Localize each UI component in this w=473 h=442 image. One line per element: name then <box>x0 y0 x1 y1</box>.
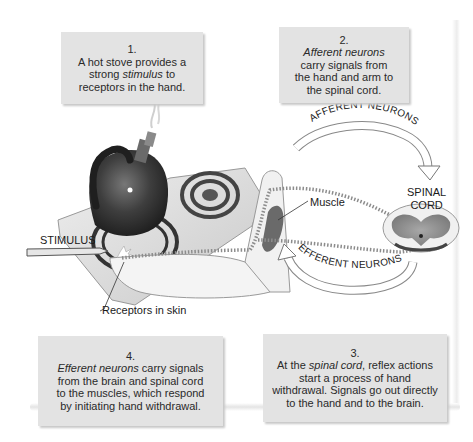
step-4-caption: 4. Efferent neurons carry signals from t… <box>38 336 223 426</box>
step-number: 1. <box>65 43 199 56</box>
caption-line: At the spinal cord, reflex actions <box>267 359 443 372</box>
stimulus-label: STIMULUS <box>40 234 96 246</box>
caption-line: Afferent neurons <box>283 46 405 59</box>
caption-line: carry signals from <box>283 59 405 72</box>
step-number: 2. <box>283 34 405 47</box>
caption-line: to the hand and to the brain. <box>267 397 443 410</box>
step-number: 3. <box>267 347 443 360</box>
caption-line: Efferent neurons carry signals <box>42 362 219 375</box>
step-3-caption: 3. At the spinal cord, reflex actions st… <box>263 334 447 422</box>
svg-text:EFFERENT NEURONS: EFFERENT NEURONS <box>296 242 403 271</box>
kettle <box>89 98 168 236</box>
muscle-label: Muscle <box>310 196 345 208</box>
step-number: 4. <box>42 350 219 363</box>
caption-line: withdrawal. Signals go out directly <box>267 384 443 397</box>
caption-line: A hot stove provides a <box>65 56 199 69</box>
caption-line: the hand and arm to <box>283 71 405 84</box>
efferent-neurons-arrow: EFFERENT NEURONS <box>278 242 413 291</box>
stove-burner-back <box>182 173 238 217</box>
spinal-cord-label-line1: SPINAL <box>407 186 446 199</box>
receptors-label: Receptors in skin <box>102 304 186 316</box>
step-2-caption: 2. Afferent neurons carry signals from t… <box>279 27 409 103</box>
caption-line: receptors in the hand. <box>65 81 199 94</box>
caption-line: the spinal cord. <box>283 84 405 97</box>
caption-line: strong stimulus to <box>65 68 199 81</box>
spinal-cord-label-line2: CORD <box>407 199 446 212</box>
efferent-label: EFFERENT NEURONS <box>296 242 403 271</box>
step-1-caption: 1. A hot stove provides a strong stimulu… <box>61 32 203 104</box>
spinal-cord-label: SPINAL CORD <box>407 186 446 212</box>
caption-line: to the muscles, which respond <box>42 387 219 400</box>
caption-line: from the brain and spinal cord <box>42 375 219 388</box>
caption-line: start a process of hand <box>267 372 443 385</box>
afferent-neurons-arrow: AFFERENT NEURONS <box>296 99 440 180</box>
caption-line: by initiating hand withdrawal. <box>42 400 219 413</box>
figure-page: AFFERENT NEURONS EFFERENT NEURONS STIMUL… <box>0 0 473 442</box>
